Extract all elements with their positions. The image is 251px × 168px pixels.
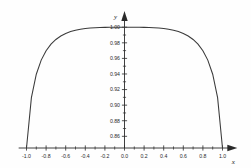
x-tick-label: 0.0 (121, 153, 128, 159)
x-axis-title: x (231, 158, 236, 166)
x-tick-label: 0.8 (199, 153, 206, 159)
x-tick-label: -0.2 (100, 153, 109, 159)
y-tick-label: 0.94 (110, 71, 120, 77)
plot-canvas: -1.0-0.8-0.6-0.4-0.20.00.20.40.60.81.0 0… (0, 0, 251, 168)
y-tick-label: 0.96 (110, 55, 120, 61)
x-axis-group (19, 145, 238, 151)
x-tick-label: -1.0 (22, 153, 31, 159)
x-tick-labels-group: -1.0-0.8-0.6-0.4-0.20.00.20.40.60.81.0 (22, 153, 226, 159)
x-tick-label: 0.6 (180, 153, 187, 159)
x-tick-label: 1.0 (219, 153, 226, 159)
x-tick-label: 0.4 (160, 153, 167, 159)
y-tick-labels-group: 0.860.880.900.920.940.960.981.00 (110, 24, 120, 139)
y-tick-label: 0.88 (110, 118, 120, 124)
x-tick-label: 0.2 (140, 153, 147, 159)
y-tick-label: 0.98 (110, 40, 120, 46)
y-tick-label: 0.86 (110, 133, 120, 139)
x-tick-marks-group (27, 145, 223, 150)
x-axis-arrowhead (227, 145, 237, 151)
y-axis-group (121, 11, 127, 148)
y-axis-arrowhead (121, 11, 127, 21)
x-tick-label: -0.6 (61, 153, 70, 159)
y-axis-title: y (113, 13, 118, 21)
x-tick-label: -0.4 (81, 153, 90, 159)
y-tick-label: 0.92 (110, 86, 120, 92)
y-tick-label: 0.90 (110, 102, 120, 108)
x-tick-label: -0.8 (42, 153, 51, 159)
plot-figure: -1.0-0.8-0.6-0.4-0.20.00.20.40.60.81.0 0… (0, 0, 251, 168)
axis-titles-group: yx (113, 13, 236, 166)
